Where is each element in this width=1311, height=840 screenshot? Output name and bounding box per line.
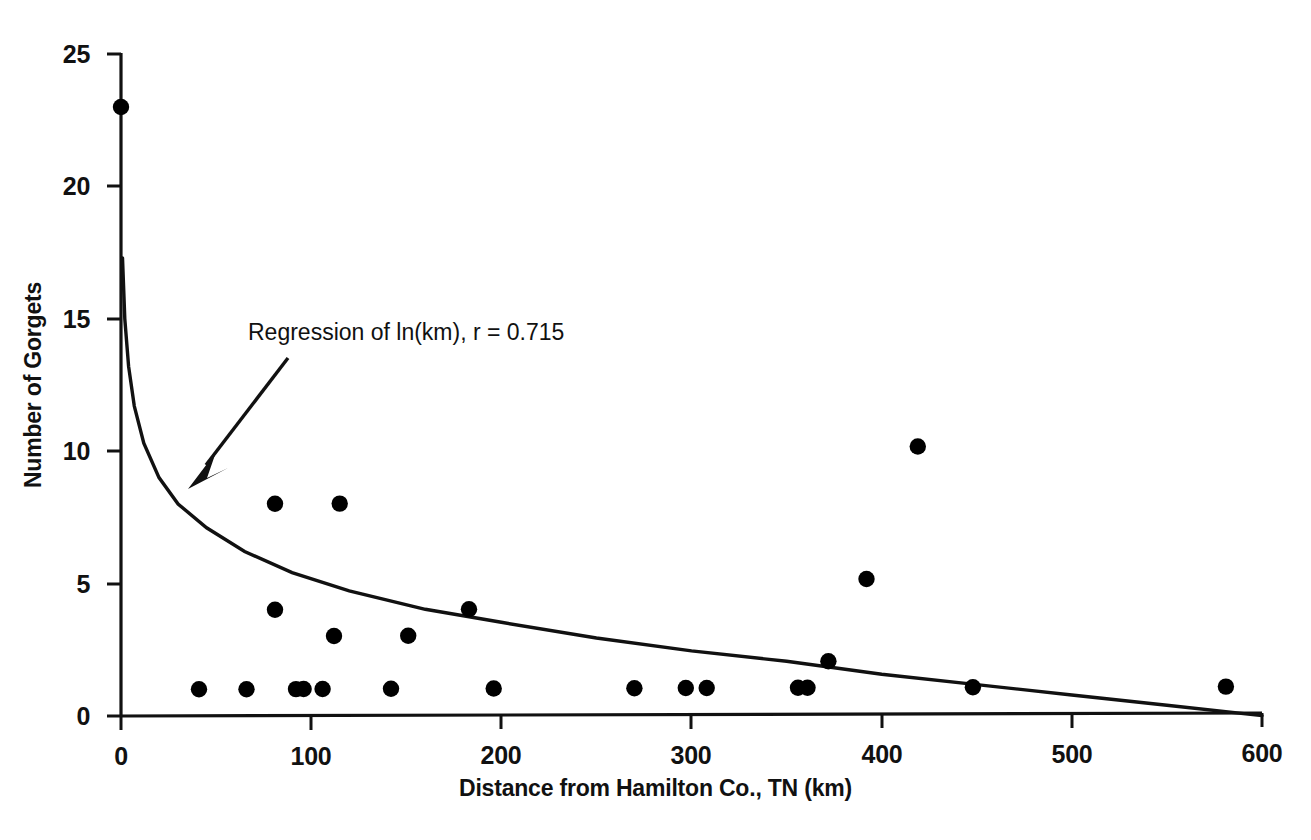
y-axis-ticks [107,54,121,716]
data-point [326,628,342,644]
data-point [1218,678,1234,694]
data-point [295,681,311,697]
data-point [113,99,129,115]
x-tick-label-100: 100 [271,742,351,771]
data-point-group [113,99,1234,698]
x-tick-label-500: 500 [1032,740,1112,769]
axis-lines [121,53,1262,716]
data-point [267,602,283,618]
y-tick-label-25: 25 [40,40,90,69]
x-tick-label-300: 300 [651,741,731,770]
y-tick-label-20: 20 [40,172,90,201]
data-point [191,681,207,697]
data-point [486,680,502,696]
y-axis-title: Number of Gorgets [20,235,47,535]
data-point [626,680,642,696]
y-tick-label-10: 10 [40,437,90,466]
data-point [238,681,254,697]
data-point [461,601,477,617]
data-point [910,438,926,454]
data-point [383,681,399,697]
x-tick-label-200: 200 [461,741,541,770]
chart-page: 25 20 15 10 5 0 0 100 200 300 400 500 60… [0,0,1311,840]
x-tick-label-0: 0 [91,742,151,771]
data-point [678,680,694,696]
data-point [400,628,416,644]
x-axis-title: Distance from Hamilton Co., TN (km) [0,775,1311,802]
x-tick-label-400: 400 [842,740,922,769]
y-tick-label-0: 0 [40,702,90,731]
annotation-arrow [188,358,288,489]
data-point [332,495,348,511]
x-tick-label-600: 600 [1222,739,1302,768]
scatter-plot-canvas [0,0,1311,840]
regression-annotation-label: Regression of ln(km), r = 0.715 [248,319,564,346]
y-tick-label-15: 15 [40,305,90,334]
data-point [799,680,815,696]
data-point [965,679,981,695]
data-point [699,680,715,696]
data-point [858,571,874,587]
data-point [820,653,836,669]
y-tick-label-5: 5 [40,570,90,599]
data-point [267,496,283,512]
data-point [314,681,330,697]
